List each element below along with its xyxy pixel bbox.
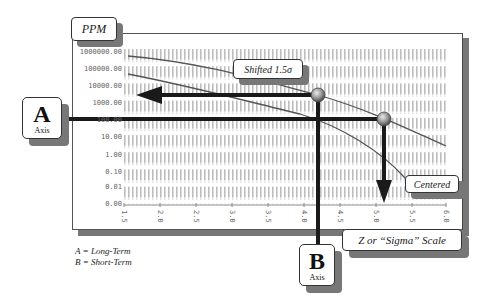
x-tick-label: 2.5 <box>192 210 200 223</box>
legend: A = Long-Term B = Short-Term <box>75 246 132 268</box>
x-tick-label: 5.5 <box>408 210 416 223</box>
y-tick-label: 0.00 <box>66 200 122 208</box>
y-tick-label: 100000.00 <box>66 65 122 73</box>
legend-b: B = Short-Term <box>75 257 132 268</box>
y-tick-label: 1000.00 <box>66 99 122 107</box>
x-tick-label: 4.0 <box>300 210 308 223</box>
centered-tag: Centered <box>405 175 459 193</box>
x-tick-label: 3.5 <box>264 210 272 223</box>
centered-point-marker <box>377 112 391 126</box>
y-tick-label: 100.00 <box>66 116 122 124</box>
ppm-tag: PPM <box>71 17 117 41</box>
b-axis-letter: B <box>300 249 334 273</box>
b-axis-sublabel: Axis <box>300 273 334 282</box>
legend-a: A = Long-Term <box>75 246 132 257</box>
y-tick-label: 10.00 <box>66 133 122 141</box>
y-tick-label: 1.00 <box>66 151 122 159</box>
a-axis-box: A Axis <box>22 97 62 139</box>
y-tick-label: 0.01 <box>66 183 122 191</box>
x-tick-label: 4.5 <box>336 210 344 223</box>
x-tick-label: 6.0 <box>442 210 450 223</box>
a-axis-sublabel: Axis <box>23 126 61 135</box>
y-tick-label: 10000.00 <box>66 82 122 90</box>
shifted-tag: Shifted 1.5σ <box>233 59 303 79</box>
y-tick-label: 0.10 <box>66 168 122 176</box>
x-tick-label: 5.0 <box>372 210 380 223</box>
x-tick-label: 1.5 <box>120 210 128 223</box>
y-tick-label: 1000000.00 <box>66 48 122 56</box>
z-scale-tag: Z or “Sigma” Scale <box>342 229 462 251</box>
x-tick-label: 3.0 <box>228 210 236 223</box>
x-tick-label: 2.0 <box>156 210 164 223</box>
shifted-point-marker <box>311 88 325 102</box>
a-axis-letter: A <box>23 102 61 126</box>
b-axis-box: B Axis <box>299 244 335 286</box>
